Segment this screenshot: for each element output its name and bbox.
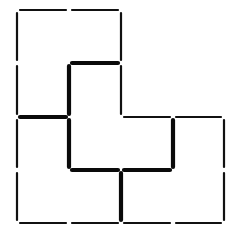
inner-l-piece-outline xyxy=(20,63,173,220)
l-shape-grid-diagram xyxy=(0,0,235,241)
